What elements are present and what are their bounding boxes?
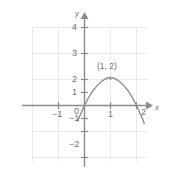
x-tick-label-2: 2 [141, 108, 146, 117]
y-axis-arrow [81, 12, 89, 19]
y-axis-label: y [75, 10, 79, 18]
y-tick-label-2: 2 [72, 75, 77, 84]
y-tick-label-3: 3 [72, 49, 77, 58]
x-tick-label-1: 1 [108, 110, 113, 119]
origin-label: 0 [74, 107, 79, 116]
vertex-point [109, 78, 111, 80]
x-axis-arrow [146, 102, 153, 110]
y-tick-label--2: −2 [69, 140, 79, 149]
coordinate-plane-svg [0, 0, 169, 174]
y-tick-label-1: 1 [72, 88, 77, 97]
y-axis [81, 12, 89, 167]
x-axis [22, 102, 153, 110]
vertex-annotation-label: (1, 2) [97, 62, 117, 71]
y-tick-label-4: 4 [72, 23, 77, 32]
x-tick-label--1: −1 [52, 110, 62, 119]
x-axis-label: x [155, 104, 159, 112]
graph-figure: y x 4 3 2 1 −1 −2 0 −1 1 2 (1, 2) [0, 0, 169, 174]
